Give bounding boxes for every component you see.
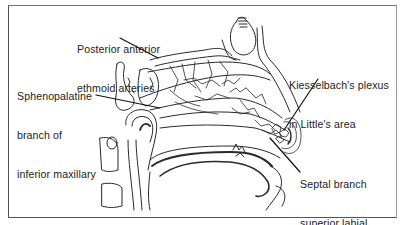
label-kiesselbach-plexus: Kiesselbach's plexus in Little's area xyxy=(289,53,389,144)
palate-and-tongue xyxy=(150,144,285,210)
label-line: Kiesselbach's plexus xyxy=(289,79,389,92)
label-line: Sphenopalatine xyxy=(17,90,96,103)
label-line: inferior maxillary xyxy=(17,168,96,181)
label-sphenopalatine-branch: Sphenopalatine branch of inferior maxill… xyxy=(17,64,96,194)
label-septal-branch-superior-labial: Septal branch superior labial artery (br… xyxy=(300,152,372,225)
label-line: branch of xyxy=(17,129,96,142)
pharynx xyxy=(126,110,157,210)
label-line: in Little's area xyxy=(289,118,389,131)
label-line: Posterior anterior xyxy=(77,43,160,56)
label-line: Septal branch xyxy=(300,178,372,191)
label-line: superior labial xyxy=(300,217,372,225)
cervical-vertebrae xyxy=(100,137,122,208)
